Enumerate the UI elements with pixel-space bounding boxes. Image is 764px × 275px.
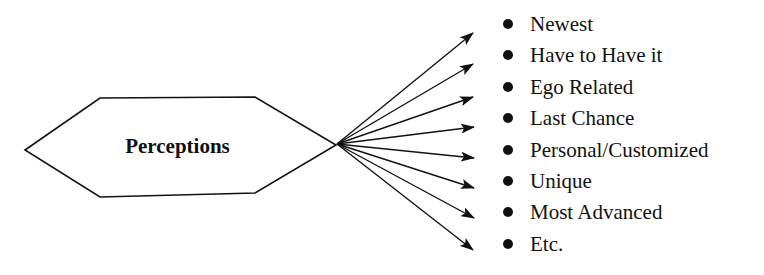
bullet-icon bbox=[503, 207, 513, 217]
center-label: Perceptions bbox=[100, 128, 255, 164]
arrow-1 bbox=[337, 33, 473, 144]
bullet-icon bbox=[503, 239, 513, 249]
bullet-icon bbox=[503, 19, 513, 29]
arrow-fan bbox=[337, 33, 474, 250]
bullet-icon bbox=[503, 145, 513, 155]
bullet-icon bbox=[503, 82, 513, 92]
arrow-4 bbox=[337, 127, 474, 144]
bullet-icon bbox=[503, 176, 513, 186]
bullet-icon bbox=[503, 50, 513, 60]
bullet-icon bbox=[503, 113, 513, 123]
arrow-8 bbox=[337, 144, 473, 250]
